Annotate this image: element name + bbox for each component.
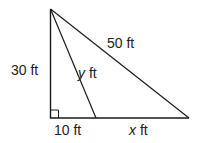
triangle-diagram: 30 ft 50 ft y ft 10 ft x ft (0, 0, 200, 143)
hypotenuse-label: 50 ft (107, 35, 134, 51)
cevian-label: y ft (77, 65, 97, 81)
base-right-label: x ft (128, 122, 148, 138)
cevian-line (51, 9, 97, 118)
right-angle-marker (51, 110, 59, 118)
vertical-side-label: 30 ft (11, 62, 38, 78)
base-right-unit: ft (136, 122, 148, 138)
cevian-unit: ft (85, 65, 97, 81)
base-left-label: 10 ft (54, 122, 81, 138)
hypotenuse (51, 9, 190, 118)
